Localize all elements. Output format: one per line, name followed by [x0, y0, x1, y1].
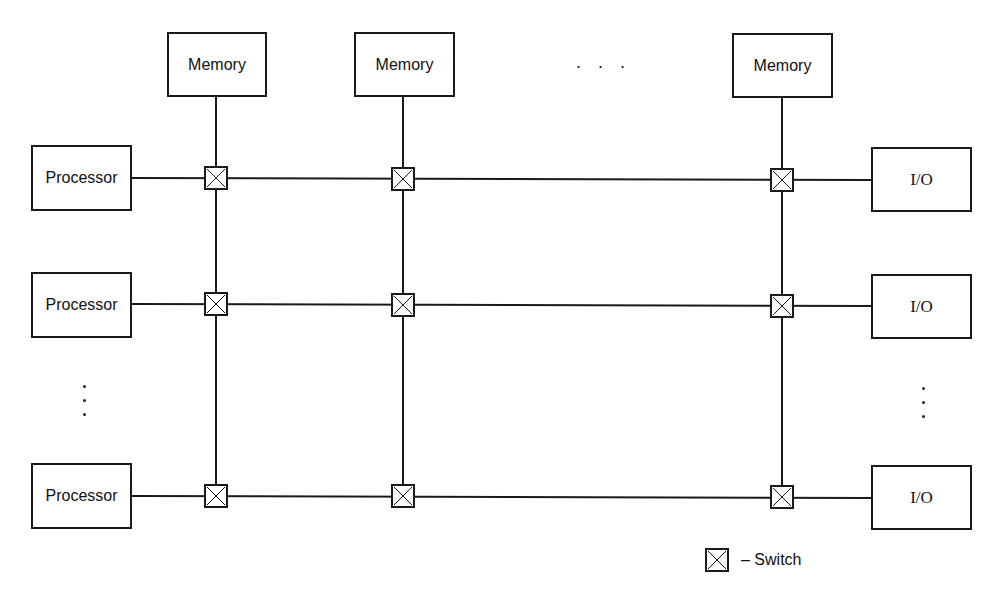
io-label: I/O	[910, 297, 933, 317]
memory-box-n: Memory	[732, 33, 833, 98]
switch-icon	[770, 168, 794, 192]
switch-icon	[204, 292, 228, 316]
memory-label: Memory	[188, 56, 246, 74]
processor-label: Processor	[45, 169, 117, 187]
memory-label: Memory	[754, 57, 812, 75]
memory-box-1: Memory	[167, 32, 267, 97]
processor-box-1: Processor	[31, 145, 132, 211]
switch-icon	[705, 548, 729, 572]
legend-label: – Switch	[741, 551, 801, 569]
switch-icon	[204, 484, 228, 508]
switch-icon	[770, 485, 794, 509]
io-box-2: I/O	[871, 274, 972, 339]
crossbar-wires	[0, 0, 996, 604]
io-label: I/O	[910, 170, 933, 190]
processor-label: Processor	[45, 296, 117, 314]
io-box-1: I/O	[871, 147, 972, 212]
switch-icon	[770, 294, 794, 318]
switch-icon	[391, 293, 415, 317]
processor-box-2: Processor	[31, 272, 132, 338]
io-vertical-ellipsis	[922, 387, 926, 429]
processor-box-n: Processor	[31, 463, 132, 529]
processor-label: Processor	[45, 487, 117, 505]
io-box-n: I/O	[871, 465, 972, 530]
switch-icon	[391, 167, 415, 191]
switch-icon	[391, 484, 415, 508]
memory-ellipsis: . . .	[576, 52, 631, 73]
memory-box-2: Memory	[354, 32, 455, 97]
legend: – Switch	[705, 548, 801, 572]
io-label: I/O	[910, 488, 933, 508]
memory-label: Memory	[376, 56, 434, 74]
processor-vertical-ellipsis	[83, 385, 87, 427]
switch-icon	[204, 166, 228, 190]
